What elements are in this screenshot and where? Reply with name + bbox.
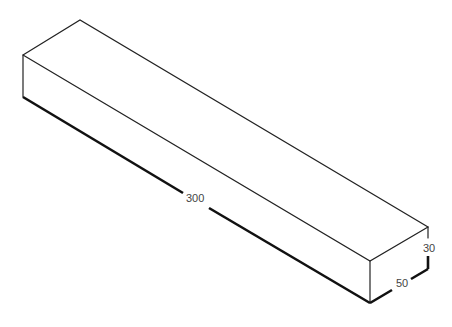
- length-dimension-line-b: [209, 208, 370, 303]
- top-face-outline: [23, 20, 428, 261]
- width-dimension-line-b: [411, 269, 428, 279]
- length-dimension-line-a: [23, 97, 183, 193]
- height-label: 30: [423, 242, 435, 254]
- isometric-box-diagram: 300 30 50: [0, 0, 452, 327]
- width-dimension-line-a: [370, 290, 392, 303]
- length-label: 300: [186, 192, 204, 204]
- width-label: 50: [396, 277, 408, 289]
